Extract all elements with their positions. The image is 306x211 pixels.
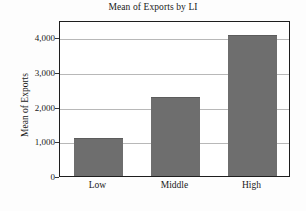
y-tick-label: 0 [9,172,55,182]
y-tick-label: 2,000 [9,103,55,113]
x-axis-tick-labels: LowMiddleHigh [59,180,290,198]
x-tick-label-middle: Middle [161,180,188,190]
chart-figure: Mean of Exports by LI Mean of Exports 01… [0,0,306,211]
bar-middle [151,97,200,176]
y-tick-label: 3,000 [9,68,55,78]
x-tick-label-low: Low [89,180,106,190]
x-tick-label-high: High [242,180,261,190]
y-axis-tick-labels: 01,0002,0003,0004,000 [6,21,55,177]
bar-high [228,35,277,176]
chart-title: Mean of Exports by LI [0,2,306,12]
bar-low [74,138,123,176]
y-tick-label: 1,000 [9,137,55,147]
y-tick-label: 4,000 [9,33,55,43]
y-tick-mark [55,177,59,178]
plot-area [59,21,290,177]
